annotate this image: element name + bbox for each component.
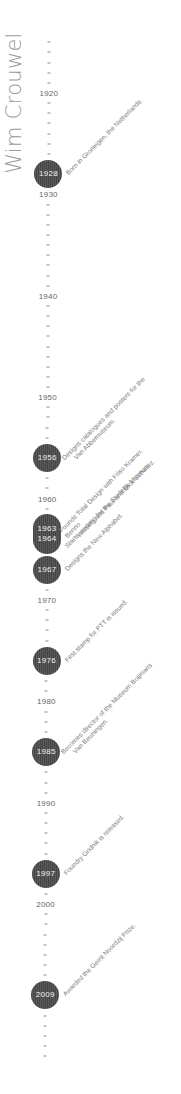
event-description: First stamp for PTT is issued.	[63, 566, 161, 664]
event-description-line: Awarded the Gerrit Noordzij Prize.	[61, 901, 159, 999]
year-tick	[47, 204, 50, 205]
year-tick	[44, 954, 47, 955]
event-year-marker: 1967	[33, 556, 61, 584]
year-tick	[47, 52, 50, 53]
year-tick	[47, 133, 50, 134]
event-year: 1997	[36, 869, 55, 879]
decade-label: 1980	[37, 697, 56, 706]
event-description-line: Born in Groningen, the Netherlands.	[65, 79, 163, 177]
year-tick	[47, 82, 50, 83]
year-tick	[46, 407, 49, 408]
event-description: Awarded the Gerrit Noordzij Prize.	[61, 901, 159, 999]
decade-label: 1970	[37, 596, 56, 605]
event-description-line: Becomes director of the Museum Boijmans	[60, 659, 158, 757]
decade-label: 1940	[39, 291, 58, 300]
year-tick	[47, 234, 50, 235]
event-description-line: Foundry Gridnik is released.	[62, 779, 160, 877]
year-tick	[45, 792, 48, 793]
year-tick	[48, 42, 51, 43]
year-tick	[45, 721, 48, 722]
year-tick	[44, 934, 47, 935]
year-tick	[44, 924, 47, 925]
year-tick	[47, 265, 50, 266]
event-year: 1976	[37, 656, 56, 666]
year-tick	[46, 366, 49, 367]
year-tick	[46, 356, 49, 357]
year-tick	[45, 782, 48, 783]
year-tick	[47, 153, 50, 154]
event-year: 1967	[37, 565, 56, 575]
year-tick	[46, 437, 49, 438]
timeline: 1920193019401950196019701980199020001928…	[0, 0, 181, 1094]
decade-label: 1950	[38, 393, 57, 402]
year-tick	[44, 965, 47, 966]
year-tick	[46, 346, 49, 347]
year-tick	[46, 305, 49, 306]
year-tick	[46, 316, 49, 317]
year-tick	[44, 812, 47, 813]
decade-label: 1960	[38, 494, 57, 503]
year-tick	[47, 62, 50, 63]
year-tick	[47, 143, 50, 144]
event-year-marker: 1997	[32, 860, 60, 888]
event-year: 1928	[39, 169, 58, 179]
year-tick	[44, 1056, 47, 1057]
year-tick	[45, 640, 48, 641]
year-tick	[47, 224, 50, 225]
event-year-marker: 1956	[33, 444, 61, 472]
year-tick	[46, 488, 49, 489]
event-description-line: First stamp for PTT is issued.	[63, 566, 161, 664]
year-tick	[44, 894, 47, 895]
event-year: 1985	[37, 747, 56, 757]
year-tick	[45, 772, 48, 773]
event-description: Starts working for the Stedelijk Museum.	[63, 452, 161, 550]
year-tick	[44, 1025, 47, 1026]
event-description: Born in Groningen, the Netherlands.	[65, 79, 163, 177]
event-year: 2009	[36, 990, 55, 1000]
event-description: Becomes director of the Museum BoijmansV…	[60, 659, 163, 762]
year-tick	[47, 113, 50, 114]
event-year-marker: 1976	[33, 647, 61, 675]
event-description-line: Starts working for the Stedelijk Museum.	[63, 452, 161, 550]
year-tick	[44, 975, 47, 976]
year-tick	[45, 610, 48, 611]
year-tick	[47, 214, 50, 215]
year-tick	[44, 1036, 47, 1037]
year-tick	[45, 620, 48, 621]
year-tick	[44, 833, 47, 834]
decade-label: 1930	[39, 190, 58, 199]
year-tick	[44, 944, 47, 945]
year-tick	[45, 630, 48, 631]
event-year-marker: 2009	[31, 981, 59, 1009]
year-tick	[46, 508, 49, 509]
year-tick	[45, 711, 48, 712]
year-tick	[46, 336, 49, 337]
event-year-marker: 19631964	[33, 514, 61, 554]
year-tick	[46, 326, 49, 327]
event-year-marker: 1985	[32, 738, 60, 766]
year-tick	[47, 72, 50, 73]
year-tick	[47, 245, 50, 246]
year-tick	[47, 103, 50, 104]
year-tick	[46, 478, 49, 479]
year-tick	[45, 681, 48, 682]
year-tick	[46, 427, 49, 428]
year-tick	[47, 285, 50, 286]
event-year: 1964	[38, 534, 57, 544]
year-tick	[44, 1015, 47, 1016]
event-year-marker: 1928	[34, 160, 62, 188]
year-tick	[44, 823, 47, 824]
year-tick	[46, 376, 49, 377]
year-tick	[47, 123, 50, 124]
year-tick	[47, 275, 50, 276]
year-tick	[45, 691, 48, 692]
year-tick	[45, 589, 48, 590]
year-tick	[46, 417, 49, 418]
decade-label: 2000	[36, 900, 55, 909]
event-year: 1956	[38, 453, 57, 463]
event-year: 1963	[38, 524, 57, 534]
event-description-line: Van Beuningen.	[65, 664, 163, 762]
event-description: Foundry Gridnik is released.	[62, 779, 160, 877]
decade-label: 1990	[37, 798, 56, 807]
year-tick	[44, 843, 47, 844]
